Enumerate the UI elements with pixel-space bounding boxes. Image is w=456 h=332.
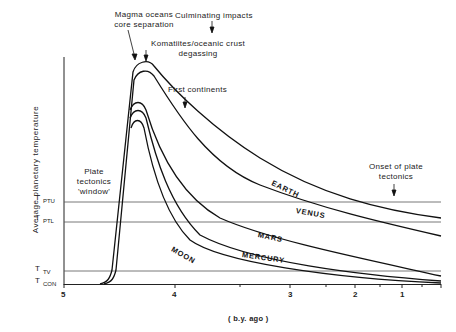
komatiites-label: Komatiites/oceanic crust degassing <box>140 39 256 59</box>
t-ptl-label: TPTL <box>35 213 54 224</box>
culminating-impacts-label: Culminating impacts <box>175 11 253 21</box>
onset-line-1: Onset of plate <box>358 162 434 172</box>
window-line-2: tectonics <box>66 177 122 187</box>
window-line-1: Plate <box>66 167 122 177</box>
t-ptu-main: T <box>35 193 40 202</box>
y-axis-label: Average planetary temperature <box>31 85 40 255</box>
x-tick-5: 5 <box>61 290 65 299</box>
x-tick-2: 2 <box>353 290 357 299</box>
t-ptu-label: TPTU <box>35 193 55 204</box>
first-continents-label: First continents <box>168 85 227 95</box>
komatiites-line-1: Komatiites/oceanic crust <box>140 39 256 49</box>
t-tv-sub: TV <box>43 269 51 275</box>
x-axis-label: ( b.y. ago ) <box>228 314 269 324</box>
t-tv-main: T <box>35 264 40 273</box>
window-line-3: 'window' <box>66 187 122 197</box>
onset-plate-tectonics-label: Onset of plate tectonics <box>358 162 434 182</box>
t-con-sub: CON <box>43 281 56 287</box>
magma-oceans-label: Magma oceans core separation <box>104 10 184 30</box>
t-ptl-sub: PTL <box>43 218 54 224</box>
plate-tectonics-window-label: Plate tectonics 'window' <box>66 167 122 197</box>
x-tick-1: 1 <box>400 290 404 299</box>
t-con-main: T <box>35 276 40 285</box>
t-ptl-main: T <box>35 213 40 222</box>
t-con-label: TCON <box>35 276 56 287</box>
x-tick-4: 4 <box>172 290 176 299</box>
magma-line-2: core separation <box>104 20 184 30</box>
t-tv-label: TTV <box>35 264 51 275</box>
komatiites-line-2: degassing <box>140 49 256 59</box>
magma-line-1: Magma oceans <box>104 10 184 20</box>
t-ptu-sub: PTU <box>43 198 55 204</box>
x-tick-3: 3 <box>288 290 292 299</box>
onset-line-2: tectonics <box>358 172 434 182</box>
